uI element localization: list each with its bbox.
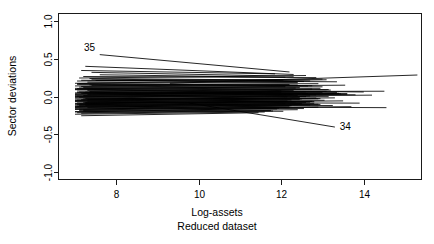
y-tick-label: -0.5 <box>43 125 54 143</box>
x-tick-label: 10 <box>194 189 206 200</box>
y-tick-label: 0.0 <box>43 90 54 104</box>
x-axis-subtitle: Reduced dataset <box>177 220 256 232</box>
series-annotation-label: 35 <box>84 42 96 53</box>
x-axis-title: Log-assets <box>191 206 242 218</box>
y-axis-title: Sector deviations <box>6 56 18 137</box>
y-tick-label: 1.0 <box>43 14 54 28</box>
y-tick-label: -1.0 <box>43 163 54 181</box>
y-tick-label: 0.5 <box>43 52 54 66</box>
x-tick-label: 8 <box>114 189 120 200</box>
chart-figure: 8101214 1.00.50.0-0.5-1.0 3534 Log-asset… <box>0 0 434 244</box>
x-tick-label: 14 <box>359 189 371 200</box>
x-tick-label: 12 <box>276 189 288 200</box>
series-annotation-label: 34 <box>340 121 352 132</box>
sector-deviations-line-chart: 8101214 1.00.50.0-0.5-1.0 3534 Log-asset… <box>0 0 434 244</box>
